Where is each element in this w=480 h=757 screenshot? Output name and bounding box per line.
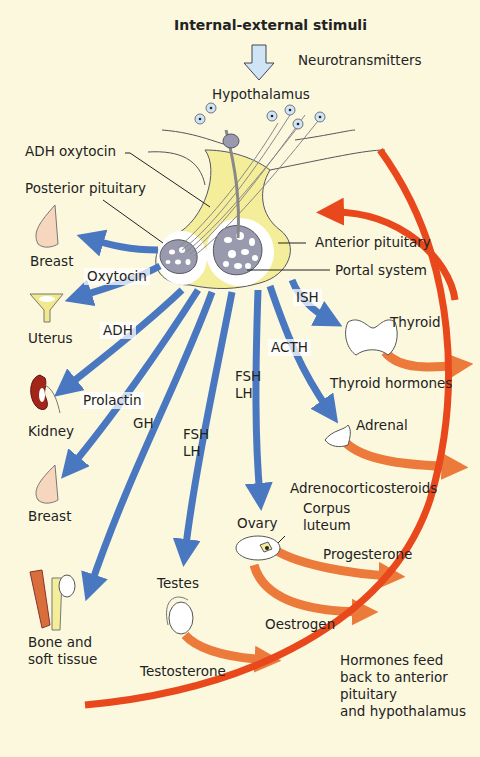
breast-bottom-icon bbox=[36, 465, 58, 503]
fsh-lh-right-label: FSH LH bbox=[235, 368, 261, 402]
adrenal-label: Adrenal bbox=[356, 417, 408, 434]
portal-system-label: Portal system bbox=[335, 262, 427, 279]
hypothalamus-label: Hypothalamus bbox=[212, 86, 310, 103]
testes-icon bbox=[166, 597, 193, 634]
acth-label: ACTH bbox=[268, 339, 311, 356]
uterus-label: Uterus bbox=[28, 330, 73, 347]
progesterone-label: Progesterone bbox=[323, 546, 412, 563]
stimulus-arrow-icon bbox=[244, 45, 274, 80]
tsh-label: ISH bbox=[293, 289, 322, 306]
neurotransmitters-label: Neurotransmitters bbox=[298, 52, 422, 69]
title-label: Internal-external stimuli bbox=[174, 17, 367, 34]
adh-label: ADH bbox=[100, 322, 136, 339]
breast-bottom-label: Breast bbox=[28, 508, 71, 525]
corpus-luteum-label: Corpus luteum bbox=[303, 500, 351, 534]
adrenal-icon bbox=[325, 425, 350, 447]
oxytocin-label: Oxytocin bbox=[84, 268, 150, 285]
adh-oxytocin-label: ADH oxytocin bbox=[25, 143, 116, 160]
fsh-lh-left-label: FSH LH bbox=[183, 426, 209, 460]
testes-label: Testes bbox=[157, 575, 199, 592]
ovary-label: Ovary bbox=[237, 515, 277, 532]
uterus-icon bbox=[30, 294, 63, 322]
bone-icon bbox=[30, 570, 75, 630]
anterior-pituitary-label: Anterior pituitary bbox=[315, 234, 431, 251]
adrenocorticosteroids-label: Adrenocorticosteroids bbox=[290, 480, 437, 497]
ovary-icon bbox=[236, 536, 280, 560]
feedback-note: Hormones feed back to anterior pituitary… bbox=[340, 652, 466, 720]
neuron-icon bbox=[195, 103, 325, 129]
thyroid-label: Thyroid bbox=[390, 314, 441, 331]
pituitary-gland bbox=[156, 103, 325, 289]
kidney-label: Kidney bbox=[28, 423, 74, 440]
blue-hormone-arrows bbox=[65, 239, 330, 588]
oestrogen-label: Oestrogen bbox=[265, 616, 335, 633]
posterior-pituitary-label: Posterior pituitary bbox=[25, 180, 146, 197]
prolactin-label: Prolactin bbox=[80, 392, 144, 409]
bone-soft-tissue-label: Bone and soft tissue bbox=[28, 634, 97, 668]
testosterone-label: Testosterone bbox=[140, 663, 226, 680]
breast-top-label: Breast bbox=[30, 253, 73, 270]
thyroid-hormones-label: Thyroid hormones bbox=[330, 375, 452, 392]
breast-top-icon bbox=[36, 205, 58, 247]
gh-label: GH bbox=[133, 415, 154, 432]
kidney-icon bbox=[31, 375, 60, 413]
